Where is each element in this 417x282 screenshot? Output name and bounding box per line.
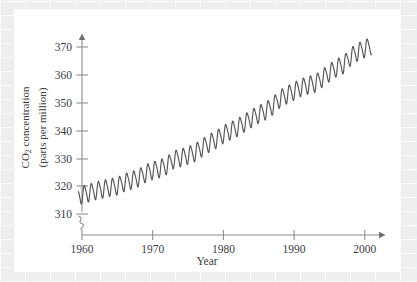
figure-panel: 370 360 350 340 330 320 310 1960 1970 19… xyxy=(14,9,400,272)
y-tick-label: 350 xyxy=(55,97,73,109)
y-tick-label: 340 xyxy=(55,125,73,137)
x-tick-label: 1980 xyxy=(212,243,235,255)
y-tick-label: 330 xyxy=(55,153,73,165)
y-axis-title-line1: CO2 concentration xyxy=(19,87,31,169)
x-tick-label: 1970 xyxy=(141,243,164,255)
x-tick-labels: 1960 1970 1980 1990 2000 xyxy=(71,243,377,255)
co2-line-chart: 370 360 350 340 330 320 310 1960 1970 19… xyxy=(14,9,400,272)
y-axis-title: CO2 concentration (parts per million) xyxy=(19,43,48,213)
axis-break-squiggle xyxy=(79,216,84,230)
x-tick-label: 1990 xyxy=(283,243,306,255)
y-tick-label: 360 xyxy=(55,69,73,81)
x-tick-label: 1960 xyxy=(71,243,94,255)
x-axis-title: Year xyxy=(14,255,400,267)
x-tick-label: 2000 xyxy=(353,243,376,255)
y-tick-label: 320 xyxy=(55,180,73,192)
y-axis-title-line2: (parts per million) xyxy=(35,87,47,167)
y-tick-label: 310 xyxy=(55,208,73,220)
y-tick-labels: 370 360 350 340 330 320 310 xyxy=(55,41,73,220)
y-tick-label: 370 xyxy=(55,41,73,53)
x-axis xyxy=(82,230,380,240)
co2-data-line xyxy=(78,39,371,204)
